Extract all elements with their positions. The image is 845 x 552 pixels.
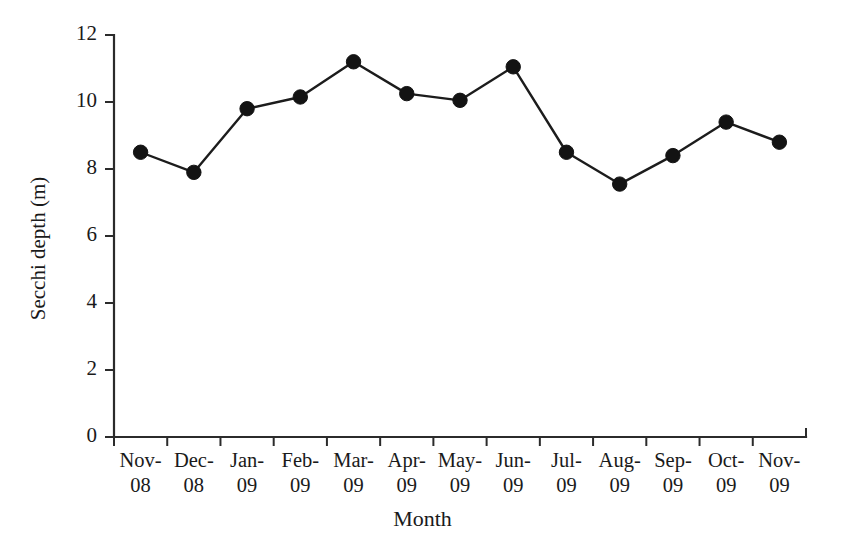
y-axis-ticks — [105, 35, 114, 437]
data-point-Nov-09 — [772, 135, 786, 149]
x-tick-label-Nov-09: Nov-09 — [744, 448, 814, 498]
secchi-depth-series-line — [141, 62, 780, 184]
y-tick-label-6: 6 — [57, 224, 97, 245]
x-axis-title: Month — [0, 506, 845, 532]
y-tick-label-4: 4 — [57, 291, 97, 312]
y-tick-label-10: 10 — [57, 90, 97, 111]
data-point-Apr-09 — [400, 86, 414, 100]
data-point-Jul-09 — [559, 145, 573, 159]
data-point-Nov-08 — [133, 145, 147, 159]
x-tick-label-month: Nov- — [744, 448, 814, 473]
data-point-Jan-09 — [240, 102, 254, 116]
chart-figure: 024681012 Nov-08Dec-08Jan-09Feb-09Mar-09… — [0, 0, 845, 552]
y-axis-title: Secchi depth (m) — [26, 149, 51, 349]
y-tick-label-8: 8 — [57, 157, 97, 178]
data-point-Mar-09 — [346, 55, 360, 69]
data-point-Sep-09 — [666, 148, 680, 162]
data-point-May-09 — [453, 93, 467, 107]
data-point-Dec-08 — [187, 165, 201, 179]
y-tick-label-0: 0 — [57, 425, 97, 446]
y-tick-label-2: 2 — [57, 358, 97, 379]
data-point-Jun-09 — [506, 60, 520, 74]
y-tick-label-12: 12 — [57, 23, 97, 44]
data-point-Aug-09 — [612, 177, 626, 191]
secchi-depth-series-markers — [133, 55, 786, 192]
x-tick-label-year: 09 — [744, 473, 814, 498]
x-axis-ticks — [114, 437, 753, 446]
data-point-Feb-09 — [293, 90, 307, 104]
data-point-Oct-09 — [719, 115, 733, 129]
